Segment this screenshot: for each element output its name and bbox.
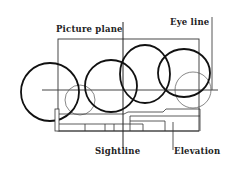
bold-circle-3 [120, 45, 170, 103]
elevation-label: Elevation [174, 146, 220, 156]
eye-line-label: Eye line [170, 17, 209, 27]
elevation-base [55, 109, 200, 131]
bold-circle-1 [21, 63, 79, 121]
bold-circle-2 [85, 60, 137, 112]
sightline-label: Sightline [95, 146, 140, 156]
picture-plane-label: Picture plane [56, 24, 123, 34]
